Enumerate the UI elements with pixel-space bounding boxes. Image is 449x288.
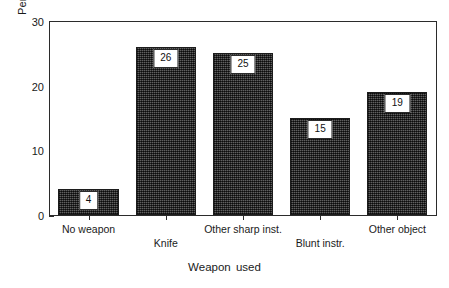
y-tick-label: 10	[20, 146, 44, 157]
x-tick-mark	[320, 216, 321, 220]
bar[interactable]: 19	[367, 92, 427, 215]
bar-series: 426251519	[50, 22, 436, 215]
chart-figure: Per cent serious injuries 0102030 426251…	[0, 0, 449, 288]
x-category-label: Knife	[154, 238, 178, 249]
bar-slot: 25	[213, 22, 273, 215]
bar[interactable]: 15	[290, 118, 350, 215]
x-tick-mark	[166, 216, 167, 220]
x-category-label: Blunt instr.	[296, 238, 345, 249]
bar-value-label: 25	[230, 55, 255, 74]
y-tick-label: 30	[20, 17, 44, 28]
bar-slot: 19	[367, 22, 427, 215]
x-tick-mark	[397, 216, 398, 220]
bar-slot: 26	[136, 22, 196, 215]
bar-value-label: 26	[153, 49, 178, 68]
bar-slot: 15	[290, 22, 350, 215]
bar-value-label: 19	[385, 94, 410, 113]
bar-value-label: 15	[308, 120, 333, 139]
y-tick-label: 0	[20, 211, 44, 222]
x-tick-mark	[89, 216, 90, 220]
x-category-label: Other sharp inst.	[204, 224, 282, 235]
bar-value-label: 4	[79, 191, 99, 210]
bar[interactable]: 26	[136, 47, 196, 215]
bar[interactable]: 25	[213, 53, 273, 215]
y-tick-mark	[49, 216, 54, 217]
x-tick-mark	[243, 216, 244, 220]
x-category-label: Other object	[369, 224, 426, 235]
bar-slot: 4	[58, 22, 118, 215]
x-axis-title: Weapon used	[0, 262, 449, 274]
x-category-label: No weapon	[62, 224, 115, 235]
bar[interactable]: 4	[58, 189, 118, 215]
y-tick-label: 20	[20, 82, 44, 93]
